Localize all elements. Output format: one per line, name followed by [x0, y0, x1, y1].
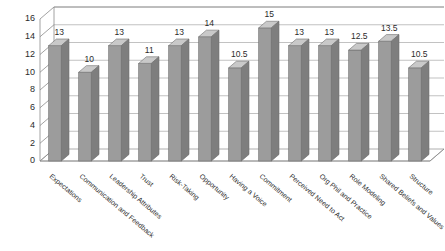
bar-front-face	[49, 46, 62, 161]
bar-front-face	[139, 63, 152, 161]
y-tick-label-4: 4	[30, 120, 35, 130]
category-labels-group: ExpectationsCommunication and FeedbackLe…	[48, 172, 445, 239]
value-label-3: 11	[145, 45, 154, 55]
bar-side-face	[91, 66, 99, 161]
bar-2	[109, 39, 129, 161]
bar-side-face	[331, 39, 339, 161]
bar-front-face	[79, 72, 92, 161]
bar-chart: 0246810121416 13101311131410.515131312.5…	[0, 0, 445, 251]
bar-front-face	[229, 68, 242, 161]
y-tick-label-2: 2	[30, 138, 35, 148]
value-label-0: 13	[54, 27, 64, 37]
category-label-9: Org Phil and Practice	[318, 172, 374, 221]
bar-11	[379, 35, 399, 161]
y-axis-tick-labels: 0246810121416	[25, 13, 35, 165]
bar-side-face	[151, 57, 159, 161]
bar-front-face	[199, 37, 212, 161]
y-tick-label-16: 16	[25, 13, 35, 23]
value-label-7: 15	[264, 9, 274, 19]
bar-front-face	[409, 68, 422, 161]
y-tick-label-0: 0	[30, 155, 35, 165]
category-label-2: Leadership Attributes	[108, 172, 164, 221]
bar-side-face	[421, 61, 429, 161]
category-label-11: Shared Beliefs and Values	[378, 172, 445, 230]
bar-1	[79, 66, 99, 161]
category-label-8: Perceived Need to Act	[288, 172, 346, 222]
chart-container: 0246810121416 13101311131410.515131312.5…	[0, 0, 445, 251]
bar-front-face	[379, 41, 392, 161]
bar-8	[289, 39, 309, 161]
bar-10	[349, 43, 369, 161]
bar-6	[229, 61, 249, 161]
bar-front-face	[169, 46, 182, 161]
value-label-8: 13	[294, 27, 304, 37]
y-tick-label-14: 14	[25, 31, 35, 41]
bar-side-face	[391, 35, 399, 161]
value-label-10: 12.5	[351, 31, 368, 41]
bar-3	[139, 57, 159, 161]
bar-side-face	[61, 39, 69, 161]
bar-12	[409, 61, 429, 161]
bar-side-face	[301, 39, 309, 161]
bar-side-face	[181, 39, 189, 161]
bar-side-face	[271, 21, 279, 161]
y-tick-16	[40, 7, 54, 19]
bar-front-face	[319, 46, 332, 161]
bar-side-face	[361, 43, 369, 161]
bar-7	[259, 21, 279, 161]
value-label-9: 13	[324, 27, 334, 37]
y-tick-label-8: 8	[30, 84, 35, 94]
value-label-5: 14	[204, 18, 214, 28]
bar-front-face	[109, 46, 122, 161]
bar-0	[49, 39, 69, 161]
value-label-1: 10	[84, 54, 94, 64]
bar-front-face	[259, 28, 272, 161]
y-tick-label-10: 10	[25, 67, 35, 77]
bar-front-face	[349, 50, 362, 161]
category-label-4: Risk-Taking	[168, 172, 201, 201]
bar-front-face	[289, 46, 302, 161]
value-label-6: 10.5	[231, 49, 248, 59]
value-label-11: 13.5	[381, 23, 398, 33]
bar-side-face	[121, 39, 129, 161]
bar-5	[199, 30, 219, 161]
y-tick-label-6: 6	[30, 102, 35, 112]
value-label-4: 13	[174, 27, 184, 37]
category-label-5: Opportunity	[198, 172, 231, 202]
category-label-12: Structure	[408, 172, 434, 196]
bar-side-face	[241, 61, 249, 161]
category-label-3: Trust	[138, 172, 155, 187]
value-label-12: 10.5	[411, 49, 428, 59]
y-tick-14	[40, 25, 54, 37]
bar-4	[169, 39, 189, 161]
y-tick-label-12: 12	[25, 49, 35, 59]
bar-9	[319, 39, 339, 161]
value-label-2: 13	[114, 27, 124, 37]
bar-side-face	[211, 30, 219, 161]
